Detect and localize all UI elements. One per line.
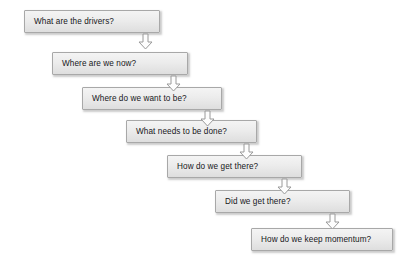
flow-node-label: What needs to be done? xyxy=(127,127,233,137)
down-block-arrow-icon xyxy=(239,143,254,160)
flow-node-label: How do we keep momentum? xyxy=(252,235,377,245)
down-block-arrow-icon xyxy=(277,178,292,195)
down-block-arrow-icon xyxy=(200,110,215,127)
flow-node-where-want[interactable]: Where do we want to be? xyxy=(82,87,222,110)
flow-node-label: Where are we now? xyxy=(53,59,142,69)
flow-node-drivers[interactable]: What are the drivers? xyxy=(24,10,160,33)
flow-node-label: What are the drivers? xyxy=(25,17,120,27)
flow-node-label: Where do we want to be? xyxy=(83,94,193,104)
flow-node-keep-momentum[interactable]: How do we keep momentum? xyxy=(251,228,393,251)
down-block-arrow-icon xyxy=(325,213,340,230)
flow-node-how-get-there[interactable]: How do we get there? xyxy=(167,155,302,178)
flow-node-where-now[interactable]: Where are we now? xyxy=(52,52,188,75)
down-block-arrow-icon xyxy=(138,33,153,50)
flow-node-what-needed[interactable]: What needs to be done? xyxy=(126,120,257,143)
flow-node-label: How do we get there? xyxy=(168,162,264,172)
flow-node-label: Did we get there? xyxy=(216,197,297,207)
down-block-arrow-icon xyxy=(166,75,181,92)
flowchart-canvas: What are the drivers? Where are we now? … xyxy=(0,0,408,266)
